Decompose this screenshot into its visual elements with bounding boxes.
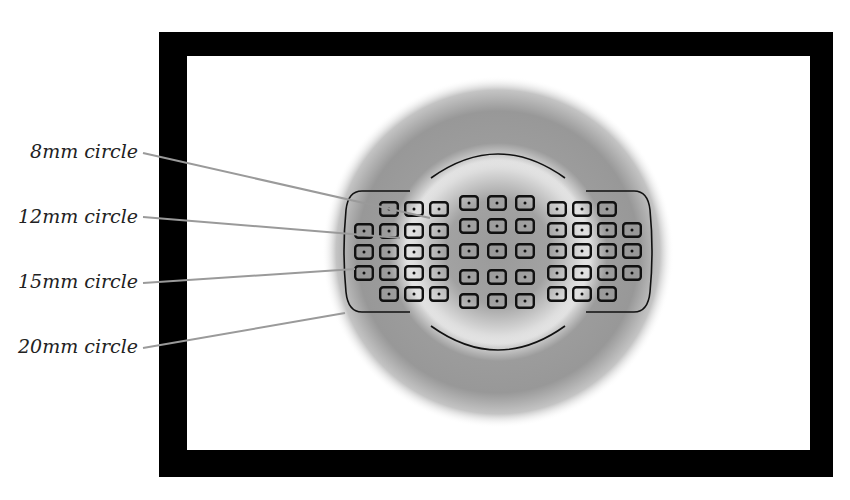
label-15mm-circle: 15mm circle: [18, 272, 138, 291]
af-point-dot: [581, 293, 584, 296]
af-diagram: 8mm circle 12mm circle 15mm circle 20mm …: [0, 0, 850, 500]
af-point-dot: [468, 250, 471, 253]
af-point-dot: [438, 208, 441, 211]
af-point-dot: [388, 251, 391, 254]
af-point-dot: [388, 272, 391, 275]
af-point-dot: [496, 300, 499, 303]
af-point-dot: [556, 208, 559, 211]
af-point-dot: [468, 225, 471, 228]
af-point-dot: [413, 230, 416, 233]
af-point-dot: [606, 208, 609, 211]
af-point-dot: [581, 208, 584, 211]
af-point-dot: [524, 300, 527, 303]
af-point-dot: [388, 230, 391, 233]
af-point-dot: [413, 272, 416, 275]
af-point-dot: [413, 208, 416, 211]
label-12mm-circle: 12mm circle: [18, 207, 138, 226]
af-point-dot: [631, 272, 634, 275]
af-point-dot: [556, 250, 559, 253]
af-point-dot: [631, 229, 634, 232]
af-point-dot: [581, 272, 584, 275]
diagram-canvas: [0, 0, 850, 500]
af-point-dot: [388, 293, 391, 296]
af-point-dot: [524, 276, 527, 279]
label-8mm-circle: 8mm circle: [30, 142, 138, 161]
af-point-dot: [581, 229, 584, 232]
af-point-dot: [581, 250, 584, 253]
af-point-dot: [438, 293, 441, 296]
af-point-dot: [438, 251, 441, 254]
af-point-dot: [438, 230, 441, 233]
af-point-dot: [496, 225, 499, 228]
af-point-dot: [496, 250, 499, 253]
af-point-dot: [496, 202, 499, 205]
af-point-dot: [524, 250, 527, 253]
af-point-dot: [606, 229, 609, 232]
af-point-dot: [468, 202, 471, 205]
af-point-dot: [468, 300, 471, 303]
af-point-dot: [413, 293, 416, 296]
af-point-dot: [413, 251, 416, 254]
af-point-dot: [438, 272, 441, 275]
af-point-dot: [556, 229, 559, 232]
af-point-dot: [363, 272, 366, 275]
af-point-dot: [606, 272, 609, 275]
af-point-dot: [524, 202, 527, 205]
af-point-dot: [631, 250, 634, 253]
af-point-dot: [556, 293, 559, 296]
af-point-dot: [524, 225, 527, 228]
label-20mm-circle: 20mm circle: [18, 337, 138, 356]
af-point-dot: [468, 276, 471, 279]
af-point-dot: [496, 276, 499, 279]
af-point-dot: [556, 272, 559, 275]
af-point-dot: [363, 230, 366, 233]
af-point-dot: [606, 293, 609, 296]
af-point-dot: [363, 251, 366, 254]
af-point-dot: [606, 250, 609, 253]
